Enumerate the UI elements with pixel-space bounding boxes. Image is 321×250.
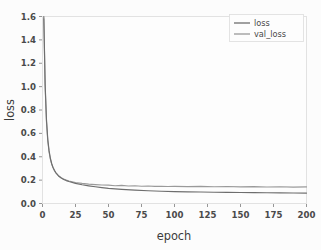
x-tick-label: 0 <box>40 210 46 220</box>
y-tick-label: 1.6 <box>21 12 36 22</box>
y-tick-label: 1.2 <box>21 58 36 68</box>
legend-label-val-loss: val_loss <box>254 29 286 39</box>
y-tick-label: 0.2 <box>21 175 36 185</box>
x-axis-tick-labels: 0255075100125150175200 <box>40 210 316 220</box>
x-tick-label: 200 <box>298 210 316 220</box>
y-tick-label: 0.6 <box>21 128 36 138</box>
y-tick-label: 0.8 <box>21 105 36 115</box>
x-tick-label: 100 <box>166 210 184 220</box>
x-tick-label: 150 <box>232 210 250 220</box>
legend-label-loss: loss <box>254 18 270 28</box>
loss-curve-figure: 0255075100125150175200 0.00.20.40.60.81.… <box>0 0 321 250</box>
y-tick-label: 1.4 <box>21 35 36 45</box>
y-axis-title: loss <box>3 99 17 121</box>
x-axis-ticks <box>43 204 307 208</box>
x-tick-label: 75 <box>136 210 148 220</box>
chart-canvas: 0255075100125150175200 0.00.20.40.60.81.… <box>0 0 321 250</box>
x-axis-title: epoch <box>157 229 192 243</box>
x-tick-label: 50 <box>103 210 115 220</box>
y-tick-label: 0.4 <box>21 152 36 162</box>
y-axis-tick-labels: 0.00.20.40.60.81.01.21.41.6 <box>21 12 36 209</box>
x-tick-label: 175 <box>265 210 283 220</box>
x-tick-label: 25 <box>70 210 82 220</box>
plot-background <box>43 17 307 204</box>
y-tick-label: 0.0 <box>21 199 36 209</box>
chart-legend: loss val_loss <box>230 15 304 42</box>
y-axis-ticks <box>39 17 43 204</box>
y-tick-label: 1.0 <box>21 82 36 92</box>
x-tick-label: 125 <box>199 210 217 220</box>
